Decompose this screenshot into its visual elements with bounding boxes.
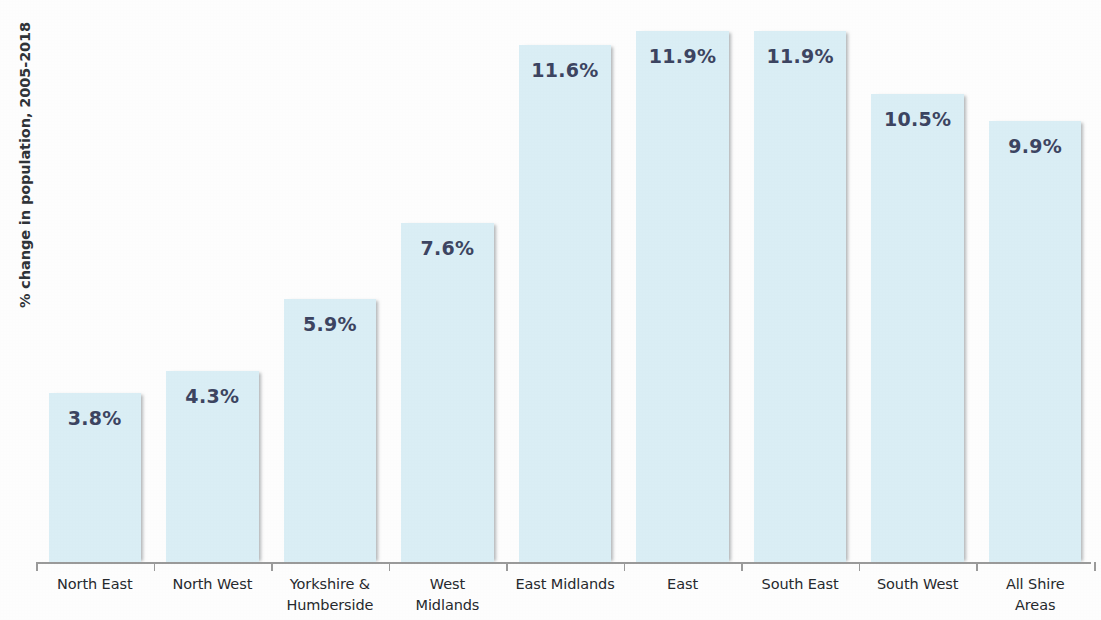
bar <box>871 94 964 563</box>
x-axis-category-line: East <box>624 574 742 595</box>
bar <box>754 31 847 563</box>
x-axis-category-line: North East <box>36 574 154 595</box>
x-axis-category-label: North West <box>154 574 272 595</box>
x-axis-category-label: East <box>624 574 742 595</box>
bar-group: 11.6% <box>519 0 612 563</box>
bar <box>401 223 494 563</box>
bar <box>519 45 612 563</box>
plot-area: 3.8%4.3%5.9%7.6%11.6%11.9%11.9%10.5%9.9% <box>36 0 1094 563</box>
x-axis-category-line: Yorkshire & <box>271 574 389 595</box>
x-axis-category-label: South East <box>741 574 859 595</box>
x-axis-category-label: All ShireAreas <box>976 574 1094 616</box>
bar-value-label: 11.9% <box>636 45 729 67</box>
bar-group: 11.9% <box>636 0 729 563</box>
x-axis-tick <box>859 562 861 571</box>
x-axis-tick <box>271 562 273 571</box>
x-axis-category-line: South East <box>741 574 859 595</box>
bar-value-label: 3.8% <box>49 407 142 429</box>
x-axis-tick <box>506 562 508 571</box>
x-axis-category-label: WestMidlands <box>389 574 507 616</box>
bar-value-label: 9.9% <box>989 135 1082 157</box>
bar-group: 3.8% <box>49 0 142 563</box>
bar-group: 7.6% <box>401 0 494 563</box>
x-axis-tick <box>741 562 743 571</box>
bar <box>636 31 729 563</box>
bar <box>284 299 377 563</box>
bar-value-label: 11.9% <box>754 45 847 67</box>
x-axis-category-label: South West <box>859 574 977 595</box>
bar-group: 5.9% <box>284 0 377 563</box>
bar-value-label: 7.6% <box>401 237 494 259</box>
bar-value-label: 10.5% <box>871 108 964 130</box>
x-axis-category-line: North West <box>154 574 272 595</box>
x-axis-category-label: North East <box>36 574 154 595</box>
bar-group: 11.9% <box>754 0 847 563</box>
x-axis-tick <box>624 562 626 571</box>
x-axis-line <box>36 562 1091 564</box>
x-axis-category-line: Areas <box>976 595 1094 616</box>
x-axis-category-line: East Midlands <box>506 574 624 595</box>
bar-chart: % change in population, 2005-2018 3.8%4.… <box>0 0 1101 620</box>
bar-group: 4.3% <box>166 0 259 563</box>
bar-value-label: 4.3% <box>166 385 259 407</box>
bar-value-label: 11.6% <box>519 59 612 81</box>
bar-value-label: 5.9% <box>284 313 377 335</box>
x-axis-category-line: Midlands <box>389 595 507 616</box>
bar-group: 10.5% <box>871 0 964 563</box>
x-axis-category-label: Yorkshire &Humberside <box>271 574 389 616</box>
x-axis-tick <box>389 562 391 571</box>
x-axis-tick <box>1094 562 1096 571</box>
x-axis-tick <box>976 562 978 571</box>
x-axis-category-line: South West <box>859 574 977 595</box>
bar <box>989 121 1082 563</box>
x-axis-category-line: West <box>389 574 507 595</box>
bar-group: 9.9% <box>989 0 1082 563</box>
x-axis-category-line: All Shire <box>976 574 1094 595</box>
x-axis-tick <box>36 562 38 571</box>
x-axis-category-line: Humberside <box>271 595 389 616</box>
x-axis-tick <box>154 562 156 571</box>
x-axis-category-label: East Midlands <box>506 574 624 595</box>
